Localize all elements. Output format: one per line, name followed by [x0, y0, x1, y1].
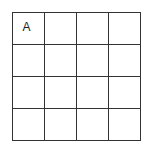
cell-0-1[interactable]: [45, 13, 77, 45]
cell-2-3[interactable]: [109, 77, 141, 109]
cell-3-3[interactable]: [109, 109, 141, 141]
cell-0-2[interactable]: [77, 13, 109, 45]
cell-2-0[interactable]: [13, 77, 45, 109]
cell-2-1[interactable]: [45, 77, 77, 109]
cell-2-2[interactable]: [77, 77, 109, 109]
cell-3-1[interactable]: [45, 109, 77, 141]
cell-1-0[interactable]: [13, 45, 45, 77]
cell-1-3[interactable]: [109, 45, 141, 77]
cell-0-3[interactable]: [109, 13, 141, 45]
cell-1-2[interactable]: [77, 45, 109, 77]
cell-1-1[interactable]: [45, 45, 77, 77]
cell-0-0[interactable]: A: [13, 13, 45, 45]
cell-3-2[interactable]: [77, 109, 109, 141]
grid-4x4: A: [12, 12, 141, 141]
cell-3-0[interactable]: [13, 109, 45, 141]
